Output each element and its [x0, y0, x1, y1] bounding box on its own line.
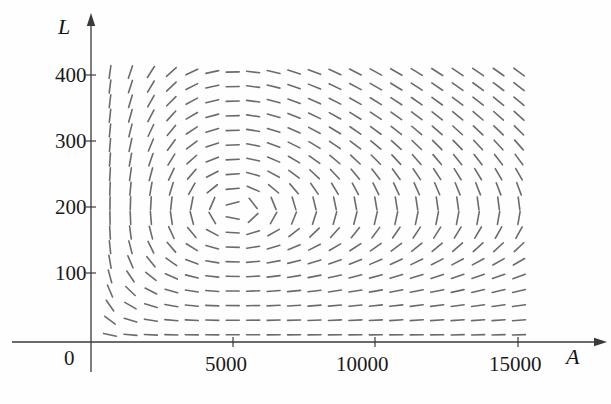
- slope-segment: [109, 139, 110, 152]
- slope-segment: [206, 114, 219, 117]
- y-tick-label-400: 400: [55, 63, 87, 88]
- slope-segment: [475, 227, 482, 238]
- slope-segment: [473, 243, 483, 252]
- slope-segment: [247, 172, 260, 176]
- slope-segment: [349, 259, 361, 264]
- slope-segment: [148, 139, 153, 151]
- slope-segment: [167, 242, 176, 252]
- slope-segment: [410, 290, 423, 293]
- slope-segment: [267, 261, 280, 263]
- slope-segment: [518, 212, 520, 225]
- slope-segment: [206, 71, 219, 74]
- slope-segment: [431, 320, 444, 321]
- slope-segment: [350, 127, 361, 134]
- slope-segment: [187, 155, 197, 164]
- slope-segment: [206, 245, 219, 249]
- slope-segment: [329, 260, 341, 264]
- slope-segment: [165, 274, 177, 279]
- slope-segment: [288, 70, 300, 74]
- slope-segment: [495, 227, 501, 238]
- slope-segment: [432, 68, 443, 75]
- slope-segment: [185, 275, 198, 278]
- slope-segment: [166, 258, 177, 265]
- slope-segment: [395, 212, 398, 225]
- slope-segment: [514, 126, 523, 135]
- y-zero-label: 0: [64, 346, 75, 371]
- slope-segment: [169, 183, 173, 195]
- slope-segment: [495, 154, 503, 164]
- slope-segment: [149, 168, 152, 181]
- slope-segment: [332, 183, 339, 194]
- slope-segment: [369, 290, 382, 292]
- slope-segment: [247, 246, 260, 248]
- slope-segment: [126, 287, 135, 296]
- slope-segment: [171, 197, 172, 210]
- slope-segment: [188, 228, 196, 238]
- slope-segment: [432, 83, 443, 90]
- slope-segment: [473, 97, 483, 105]
- slope-segment: [185, 305, 198, 306]
- axes-group: [12, 13, 607, 372]
- slope-segment: [310, 170, 320, 179]
- slope-segment: [493, 68, 504, 76]
- slope-segment: [106, 300, 113, 311]
- slope-segment: [455, 183, 460, 195]
- slope-segment: [373, 183, 379, 195]
- slope-segment: [390, 259, 402, 264]
- slope-segment: [168, 140, 176, 151]
- slope-segment: [516, 169, 522, 180]
- slope-segment: [492, 320, 505, 321]
- slope-segment: [474, 140, 483, 150]
- slope-segment: [456, 212, 458, 225]
- slope-segment: [292, 212, 297, 224]
- slope-segment: [331, 169, 340, 179]
- slope-segment: [107, 285, 112, 297]
- slope-segment: [494, 140, 503, 150]
- slope-segment: [268, 229, 279, 235]
- slope-segment: [370, 69, 381, 75]
- slope-segment: [391, 243, 401, 251]
- slope-segment: [369, 305, 382, 306]
- slope-segment: [288, 128, 300, 133]
- slope-segment: [436, 197, 438, 210]
- slope-segment: [390, 290, 403, 292]
- slope-segment: [148, 125, 154, 137]
- slope-segment: [189, 183, 195, 194]
- slope-segment: [349, 320, 362, 321]
- slope-segment: [169, 168, 175, 180]
- x-tick-label-15000: 15000: [489, 352, 542, 377]
- slope-segment: [472, 274, 484, 278]
- slope-segment: [247, 129, 260, 131]
- slope-segment: [288, 142, 300, 148]
- slope-segment: [288, 260, 301, 263]
- slope-segment: [473, 68, 484, 75]
- slope-segment: [412, 126, 422, 134]
- slope-segment: [329, 275, 342, 278]
- slope-segment: [452, 83, 463, 91]
- slope-segment: [310, 228, 319, 237]
- slope-segment: [165, 320, 178, 321]
- slope-segment: [125, 302, 136, 308]
- slope-segment: [268, 171, 279, 177]
- slope-segment: [288, 113, 300, 118]
- slope-segment: [247, 71, 260, 73]
- slope-segment: [454, 169, 461, 180]
- slope-segment: [145, 304, 157, 308]
- slope-segment: [288, 290, 301, 291]
- slope-segment: [309, 244, 321, 250]
- slope-segment: [147, 67, 154, 78]
- x-tick-label-10000: 10000: [336, 352, 389, 377]
- slope-segment: [267, 291, 280, 292]
- slope-segment: [185, 320, 198, 321]
- slope-segment: [391, 98, 402, 105]
- slope-segment: [413, 169, 420, 180]
- slope-segment: [129, 241, 132, 254]
- slope-segment: [432, 97, 443, 105]
- slope-segment: [129, 139, 132, 152]
- slope-segment: [108, 270, 111, 283]
- slope-segment: [476, 183, 481, 195]
- slope-segment: [308, 70, 320, 75]
- x-axis-label: A: [566, 344, 579, 370]
- x-axis-arrowhead: [594, 338, 607, 346]
- slope-segment: [129, 153, 131, 166]
